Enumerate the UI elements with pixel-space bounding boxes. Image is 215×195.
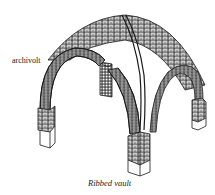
front-arch	[108, 65, 203, 134]
ribbed-vault-drawing	[0, 0, 215, 195]
figure-caption: Ribbed vault	[88, 178, 131, 188]
left-pier	[38, 106, 55, 148]
right-pier	[192, 98, 206, 130]
front-pier	[128, 132, 150, 176]
archivolt-label: archivolt	[12, 56, 40, 65]
back-pier	[100, 62, 112, 97]
